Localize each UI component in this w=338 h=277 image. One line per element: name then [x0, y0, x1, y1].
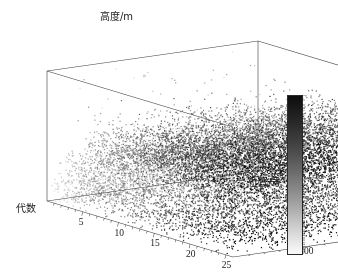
colorbar-tick-96: 96	[301, 200, 304, 203]
colorbar-tick-1: 1	[301, 95, 304, 97]
colorbar-tick-72: 72	[301, 174, 304, 177]
colorbar-tick-8: 8	[301, 104, 304, 106]
colorbar-tick-76: 76	[301, 178, 304, 181]
colorbar-tick-60: 60	[301, 161, 304, 164]
x-tick-20: 20	[186, 249, 196, 259]
y-axis-title: 位置/号	[248, 174, 281, 189]
colorbar-tick-40: 40	[301, 139, 304, 142]
colorbar-tick-84: 84	[301, 187, 304, 190]
colorbar-tick-44: 44	[301, 143, 304, 146]
colorbar-tick-36: 36	[301, 135, 304, 138]
colorbar-tick-56: 56	[301, 156, 304, 159]
colorbar-tick-92: 92	[301, 196, 304, 199]
colorbar-tick-4: 4	[301, 99, 304, 101]
colorbar-tick-80: 80	[301, 183, 304, 186]
colorbar-tick-64: 64	[301, 165, 304, 168]
colorbar-tick-28: 28	[301, 126, 304, 129]
colorbar-tick-88: 88	[301, 192, 304, 195]
colorbar-tick-16: 16	[301, 113, 304, 116]
colorbar-tick-68: 68	[301, 170, 304, 173]
colorbar-tick-12: 12	[301, 108, 304, 111]
colorbar-tick-32: 32	[301, 130, 304, 133]
z-axis-title: 高度/m	[100, 8, 133, 23]
x-tick-15: 15	[150, 238, 160, 248]
x-tick-5: 5	[79, 217, 84, 227]
x-tick-25: 25	[222, 260, 232, 270]
colorbar-tick-141: 141	[301, 249, 304, 254]
colorbar-tick-48: 48	[301, 148, 304, 151]
colorbar-tick-24: 24	[301, 121, 304, 124]
colorbar-tick-52: 52	[301, 152, 304, 155]
colorbar-tick-20: 20	[301, 117, 304, 120]
scatter3d-figure: 高度/m 位置/号 代数 510152025200400600306090120…	[0, 0, 338, 277]
x-axis-title: 代数	[16, 200, 36, 215]
colorbar-tick-labels: 1481216202428323640444852566064687276808…	[303, 95, 333, 253]
x-tick-10: 10	[115, 228, 125, 238]
